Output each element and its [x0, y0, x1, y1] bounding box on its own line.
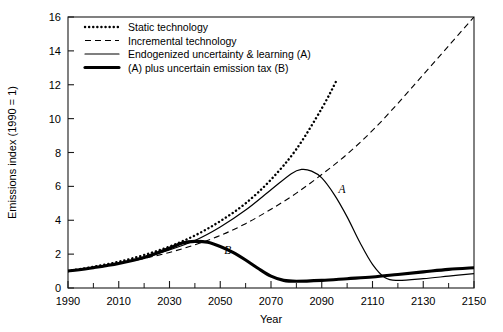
- y-tick-label: 0: [55, 282, 61, 294]
- y-tick-label: 8: [55, 147, 61, 159]
- y-tick-label: 6: [55, 180, 61, 192]
- x-tick-label: 2130: [411, 295, 435, 307]
- x-tick-label: 2030: [157, 295, 181, 307]
- x-tick-label: 2010: [107, 295, 131, 307]
- legend-label-4: (A) plus uncertain emission tax (B): [128, 62, 288, 74]
- y-tick-label: 12: [49, 79, 61, 91]
- y-tick-label: 2: [55, 248, 61, 260]
- series-annotation-A: A: [338, 183, 347, 195]
- legend-label-1: Static technology: [128, 21, 209, 33]
- legend-label-3: Endogenized uncertainty & learning (A): [128, 48, 311, 60]
- x-tick-label: 2110: [361, 295, 385, 307]
- x-tick-label: 2070: [259, 295, 283, 307]
- y-tick-label: 4: [55, 214, 61, 226]
- x-tick-label: 2150: [462, 295, 486, 307]
- emissions-index-chart: 0246810121416199020102030205020702090211…: [0, 0, 503, 332]
- x-tick-label: 1990: [56, 295, 80, 307]
- series-annotation-B: B: [224, 244, 231, 256]
- x-tick-label: 2090: [310, 295, 334, 307]
- legend-label-2: Incremental technology: [128, 35, 237, 47]
- y-tick-label: 10: [49, 113, 61, 125]
- y-axis-title: Emissions index (1990 = 1): [6, 86, 18, 219]
- x-tick-label: 2050: [208, 295, 232, 307]
- y-tick-label: 16: [49, 11, 61, 23]
- y-tick-label: 14: [49, 45, 61, 57]
- chart-canvas: 0246810121416199020102030205020702090211…: [0, 0, 503, 332]
- x-axis-title: Year: [260, 313, 283, 325]
